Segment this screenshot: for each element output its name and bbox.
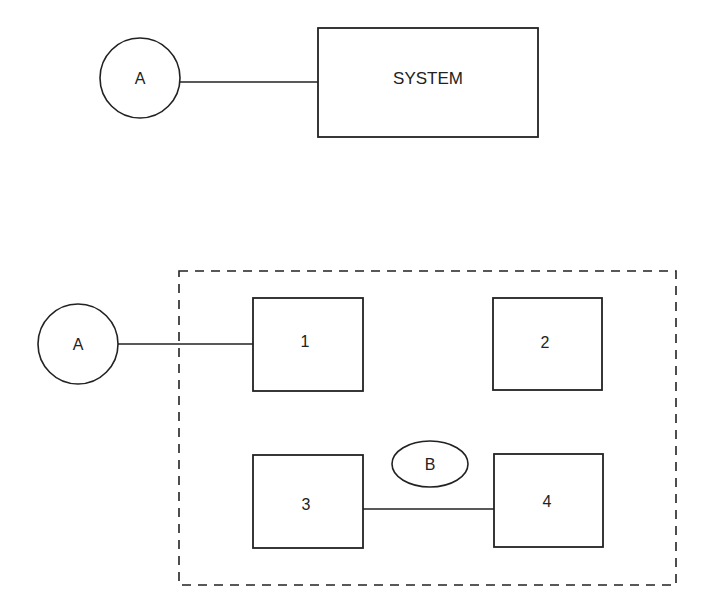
- system-label: SYSTEM: [393, 69, 463, 88]
- subsystem-box-2: 2: [493, 298, 602, 390]
- system-box: SYSTEM: [318, 28, 538, 137]
- subsystem-box-4: 4: [494, 454, 603, 547]
- external-entity-a-top: A: [100, 38, 180, 118]
- entity-a-label: A: [73, 336, 84, 353]
- box-3-label: 3: [302, 496, 311, 513]
- bottom-diagram: A 1 2 3 4 B: [38, 271, 676, 585]
- box-2-label: 2: [541, 334, 550, 351]
- diagram-canvas: A SYSTEM A 1 2 3 4: [0, 0, 712, 616]
- box-4-label: 4: [543, 493, 552, 510]
- subsystem-box-3: 3: [253, 455, 363, 548]
- interface-b-label: B: [425, 456, 436, 473]
- entity-a-label: A: [135, 70, 146, 87]
- top-diagram: A SYSTEM: [100, 28, 538, 137]
- interface-b: B: [392, 441, 468, 487]
- subsystem-box-1: 1: [253, 298, 363, 391]
- external-entity-a-bottom: A: [38, 304, 118, 384]
- box-1-label: 1: [301, 333, 310, 350]
